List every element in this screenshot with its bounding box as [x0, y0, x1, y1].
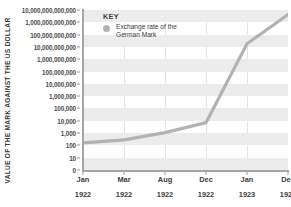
hyperinflation-line-chart: VALUE OF THE MARK AGAINST THE US DOLLAR …	[0, 0, 291, 207]
y-axis-tick-label: 1,000,000,000	[37, 56, 76, 63]
y-axis-tick-label: 10,000	[57, 117, 76, 124]
y-axis-tick-mark	[77, 22, 80, 23]
y-axis-tick-label: 10,000,000,000	[34, 43, 76, 50]
y-axis-tick-mark	[77, 170, 80, 171]
y-axis-tick-mark	[77, 157, 80, 158]
y-axis-tick-mark	[77, 133, 80, 134]
y-axis-line	[82, 9, 84, 171]
y-axis-tick-label: 100,000	[54, 105, 76, 112]
y-axis-tick-label: 1,000	[61, 130, 76, 137]
y-axis-tick-label: 100,000,000,000	[30, 31, 76, 38]
x-axis-tick-year: 1923	[280, 190, 291, 199]
y-axis-tick-label: 100,000,000	[42, 68, 76, 75]
x-axis-tick-month: Dec	[198, 175, 214, 184]
y-axis-tick-mark	[77, 71, 80, 72]
y-axis-tick-mark	[77, 10, 80, 11]
x-axis-tick-month: Jan	[239, 175, 255, 184]
y-axis-tick-label: 1,000,000	[49, 93, 76, 100]
x-axis-tick-label: Aug1922	[157, 172, 173, 199]
x-axis-tick-year: 1922	[75, 190, 91, 199]
y-axis-tick-label: 10,000,000	[45, 80, 76, 87]
x-axis-tick-labels: Jan1922Mar1922Aug1922Dec1922Jan1923Dec19…	[0, 172, 291, 206]
x-axis-tick-year: 1923	[239, 190, 255, 199]
y-axis-tick-mark	[77, 34, 80, 35]
y-axis-tick-mark	[77, 108, 80, 109]
x-axis-tick-label: Dec1922	[198, 172, 214, 199]
y-axis-tick-mark	[77, 83, 80, 84]
y-axis-tick-mark	[77, 120, 80, 121]
legend-entry-label: Exchange rate of the German Mark	[116, 23, 188, 40]
circle-marker-icon	[103, 25, 110, 32]
y-axis-tick-label: 1,000,000,000,000	[25, 19, 76, 26]
x-axis-tick-label: Dec1923	[280, 172, 291, 199]
y-axis-tick-mark	[77, 59, 80, 60]
y-axis-tick-mark	[77, 145, 80, 146]
legend-title: KEY	[103, 12, 119, 21]
x-axis-tick-label: Mar1922	[116, 172, 132, 199]
y-axis-title-text: VALUE OF THE MARK AGAINST THE US DOLLAR	[5, 17, 12, 183]
x-axis-tick-month: Dec	[280, 175, 291, 184]
y-axis-tick-labels: 10,000,000,000,0001,000,000,000,000100,0…	[14, 0, 80, 178]
x-axis-tick-year: 1922	[116, 190, 132, 199]
x-axis-tick-year: 1922	[198, 190, 214, 199]
x-axis-tick-month: Aug	[157, 175, 173, 184]
x-axis-tick-label: Jan1922	[75, 172, 91, 199]
x-axis-tick-year: 1922	[157, 190, 173, 199]
x-axis-tick-label: Jan1923	[239, 172, 255, 199]
x-axis-tick-month: Jan	[75, 175, 91, 184]
y-axis-tick-label: 10,000,000,000,000	[22, 7, 76, 14]
legend-key-box: KEY Exchange rate of the German Mark	[95, 12, 189, 48]
y-axis-tick-label: 10	[69, 154, 76, 161]
x-axis-tick-month: Mar	[116, 175, 132, 184]
y-axis-tick-mark	[77, 46, 80, 47]
y-axis-tick-mark	[77, 96, 80, 97]
y-axis-tick-label: 100	[66, 142, 76, 149]
